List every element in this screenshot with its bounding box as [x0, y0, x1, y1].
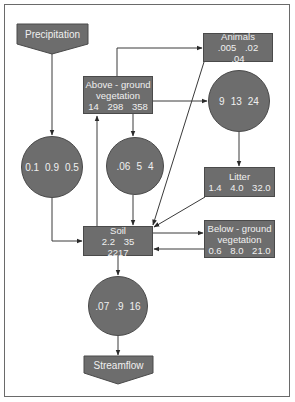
litter-pool: Litter 1.4 4.0 32.0 [204, 167, 275, 197]
soil-title: Soil [110, 225, 126, 236]
animals-title: Animals [221, 31, 255, 42]
value: 16 [130, 301, 141, 312]
value: 358 [132, 101, 148, 112]
value: 2.2 [102, 236, 115, 247]
flux-soil-to-streamflow: .07 .9 16 [88, 276, 148, 336]
flux-vegetation-to-soil: .06 5 4 [106, 137, 164, 195]
precipitation-label: Precipitation [25, 29, 80, 40]
value: 0.9 [45, 162, 59, 173]
value: .005 [218, 42, 237, 53]
value: 2217 [107, 247, 128, 258]
value: 8.0 [230, 245, 243, 256]
below-ground-values: 0.6 8.0 21.0 [205, 245, 273, 256]
below-ground-vegetation-pool: Below - ground vegetation 0.6 8.0 21.0 [204, 220, 275, 258]
value: 21.0 [252, 245, 271, 256]
value: .07 [95, 301, 109, 312]
soil-values: 2.2 35 2217 [84, 236, 152, 258]
precipitation-source: Precipitation [17, 26, 88, 43]
below-ground-title-2: vegetation [218, 234, 262, 245]
above-ground-title-1: Above - ground [86, 79, 151, 90]
value: 32.0 [252, 182, 271, 193]
litter-title: Litter [229, 171, 250, 182]
value: 0.1 [25, 162, 39, 173]
value: 35 [124, 236, 135, 247]
flux-vegetation-to-litter: 9 13 24 [208, 70, 270, 132]
animals-values: .005 .02 .04 [204, 42, 272, 64]
value: 9 [219, 96, 225, 107]
value: 1.4 [208, 182, 221, 193]
value: 298 [107, 101, 123, 112]
flux-precip-to-soil: 0.1 0.9 0.5 [21, 136, 83, 198]
above-ground-values: 14 298 358 [85, 101, 151, 112]
below-ground-title-1: Below - ground [208, 223, 272, 234]
value: 0.6 [208, 245, 221, 256]
value: .9 [115, 301, 123, 312]
value: .02 [245, 42, 258, 53]
value: .06 [116, 161, 130, 172]
litter-values: 1.4 4.0 32.0 [205, 182, 273, 193]
above-ground-vegetation-pool: Above - ground vegetation 14 298 358 [83, 76, 153, 114]
value: 24 [248, 96, 259, 107]
streamflow-label: Streamflow [93, 360, 143, 371]
value: 0.5 [65, 162, 79, 173]
animals-pool: Animals .005 .02 .04 [203, 33, 273, 62]
value: 13 [231, 96, 242, 107]
value: .04 [231, 53, 244, 64]
value: 4 [148, 161, 154, 172]
soil-pool: Soil 2.2 35 2217 [83, 226, 153, 256]
value: 14 [88, 101, 99, 112]
value: 4.0 [230, 182, 243, 193]
above-ground-title-2: vegetation [96, 90, 140, 101]
value: 5 [136, 161, 142, 172]
streamflow-sink: Streamflow [84, 357, 153, 373]
